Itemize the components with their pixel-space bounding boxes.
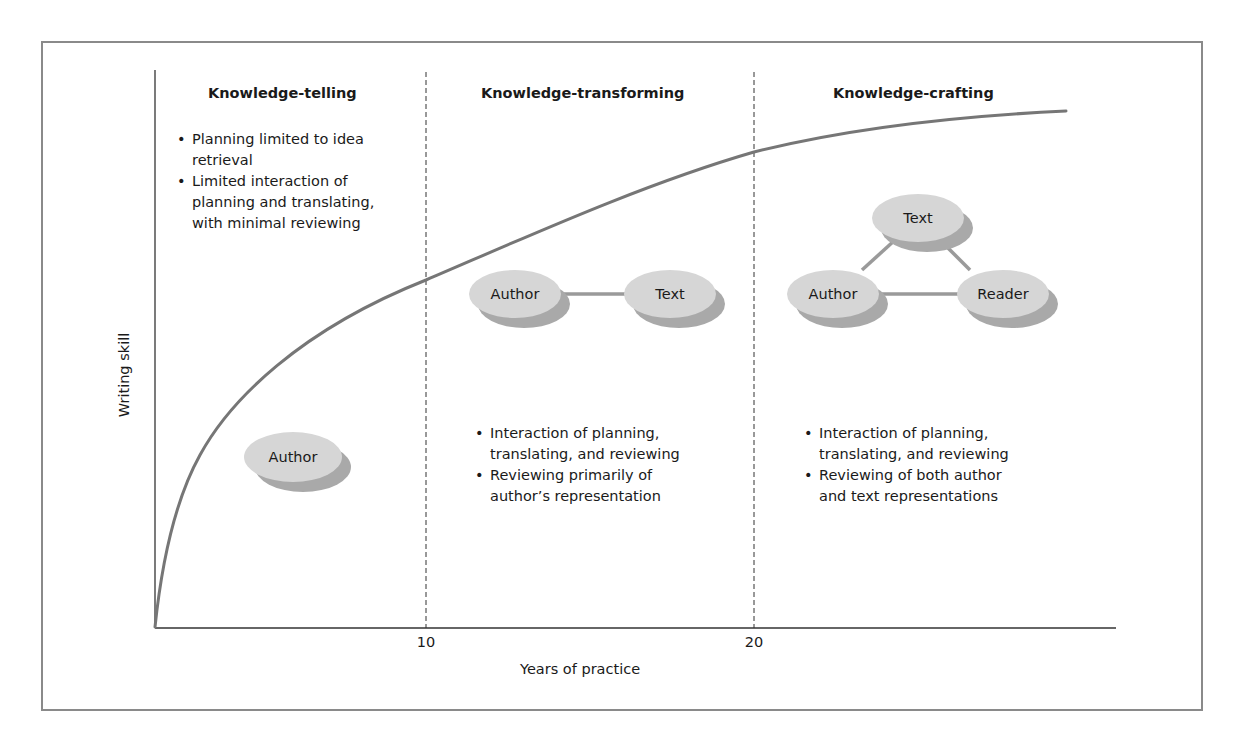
x-tick-20: 20 (745, 634, 763, 650)
bullet-item: Reviewing primarily ofauthor’s represent… (475, 465, 680, 507)
node-text-transforming: Text (624, 270, 725, 328)
node-author-crafting: Author (787, 270, 888, 328)
bullet-item: Interaction of planning,translating, and… (804, 423, 1009, 465)
node-author-transforming: Author (469, 270, 570, 328)
svg-text:Text: Text (654, 286, 685, 302)
node-text-crafting: Text (872, 194, 973, 252)
stage-title-knowledge-telling: Knowledge-telling (208, 85, 357, 101)
stage-title-knowledge-transforming: Knowledge-transforming (481, 85, 684, 101)
bullet-item: Reviewing of both authorand text represe… (804, 465, 1009, 507)
node-author-telling: Author (244, 432, 351, 492)
bullet-item: Limited interaction ofplanning and trans… (177, 171, 374, 234)
stage-transforming-bullets: Interaction of planning,translating, and… (475, 423, 680, 507)
y-axis-label: Writing skill (116, 333, 132, 417)
bullet-item: Interaction of planning,translating, and… (475, 423, 680, 465)
writing-skill-chart: Author Author Text Text Author Reader (0, 0, 1241, 745)
bullet-item: Planning limited to idearetrieval (177, 129, 374, 171)
x-axis-label: Years of practice (520, 661, 640, 677)
svg-text:Reader: Reader (977, 286, 1028, 302)
stage-title-knowledge-crafting: Knowledge-crafting (833, 85, 994, 101)
stage-telling-bullets: Planning limited to idearetrieval Limite… (177, 129, 374, 234)
svg-text:Author: Author (809, 286, 858, 302)
x-tick-10: 10 (417, 634, 435, 650)
svg-text:Author: Author (269, 449, 318, 465)
svg-text:Text: Text (902, 210, 933, 226)
connector-author-text-crafting (862, 240, 895, 270)
svg-text:Author: Author (491, 286, 540, 302)
node-reader-crafting: Reader (957, 270, 1058, 328)
stage-crafting-bullets: Interaction of planning,translating, and… (804, 423, 1009, 507)
